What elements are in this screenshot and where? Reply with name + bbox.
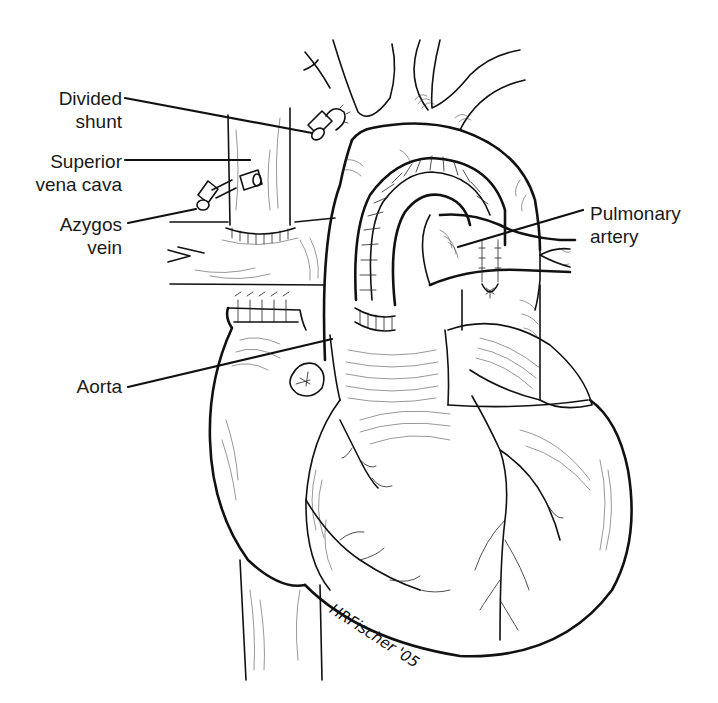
- label-line: shunt: [20, 110, 122, 133]
- aortic-arch: [324, 123, 540, 360]
- divided-shunt-clip: [308, 105, 350, 142]
- leader-lines: [125, 98, 583, 387]
- label-line: artery: [590, 225, 681, 248]
- label-superior-vena-cava: Superior vena cava: [10, 150, 122, 196]
- label-line: Aorta: [20, 375, 122, 398]
- leader-azygos-vein: [128, 209, 196, 223]
- horizontal-vessel: [168, 218, 335, 285]
- heart-illustration: Divided shunt Superior vena cava Azygos …: [0, 0, 718, 703]
- label-divided-shunt: Divided shunt: [20, 87, 122, 133]
- heart-body: [240, 324, 632, 680]
- label-line: Divided: [20, 87, 122, 110]
- leader-pulmonary-artery: [458, 210, 583, 247]
- label-line: vein: [20, 236, 122, 259]
- atrial-appendage: [210, 292, 324, 586]
- label-line: vena cava: [10, 173, 122, 196]
- label-aorta: Aorta: [20, 375, 122, 398]
- label-line: Superior: [10, 150, 122, 173]
- pulmonary-artery-shape: [423, 214, 576, 400]
- arch-branches: [304, 40, 525, 130]
- leader-aorta: [128, 339, 332, 387]
- label-azygos-vein: Azygos vein: [20, 213, 122, 259]
- label-pulmonary-artery: Pulmonary artery: [590, 202, 681, 248]
- label-line: Azygos: [20, 213, 122, 236]
- label-line: Pulmonary: [590, 202, 681, 225]
- leader-divided-shunt: [125, 98, 312, 133]
